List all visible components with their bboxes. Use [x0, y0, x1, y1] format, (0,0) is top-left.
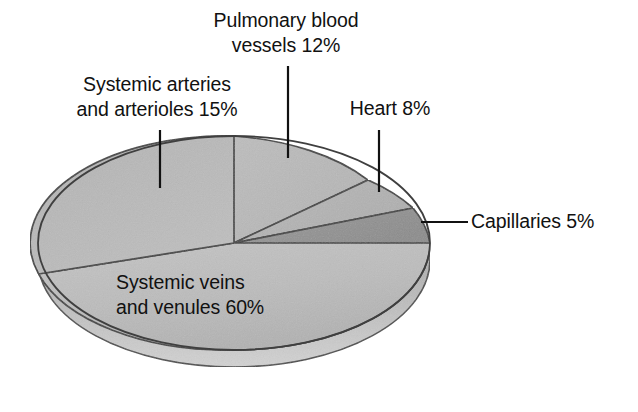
- pie-chart-graphic: [0, 0, 638, 412]
- pie-chart-figure: Pulmonary blood vessels 12% Systemic art…: [0, 0, 638, 412]
- label-systemic-veins: Systemic veins and venules 60%: [116, 270, 326, 320]
- label-heart: Heart 8%: [330, 96, 450, 121]
- label-pulmonary-blood-vessels: Pulmonary blood vessels 12%: [186, 8, 386, 58]
- label-systemic-arteries: Systemic arteries and arterioles 15%: [52, 72, 262, 122]
- label-capillaries: Capillaries 5%: [471, 209, 636, 234]
